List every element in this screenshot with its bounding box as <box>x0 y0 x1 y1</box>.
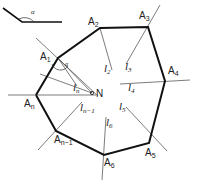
label-N: N <box>96 88 103 99</box>
svg-text:l5: l5 <box>119 100 126 114</box>
svg-text:ln: ln <box>73 81 80 95</box>
svg-text:ln−1: ln−1 <box>80 101 95 115</box>
alpha-label-A1: α <box>65 61 69 67</box>
inset-alpha-label: α <box>31 8 35 16</box>
svg-text:l6: l6 <box>106 116 113 130</box>
svg-text:A5: A5 <box>145 147 156 159</box>
svg-text:A3: A3 <box>139 10 150 22</box>
svg-text:A6: A6 <box>104 157 115 169</box>
svg-text:An−1: An−1 <box>54 134 73 146</box>
polygon-diagram: α N α A1 A2 A3 A4 A5 A6 An−1 An l2 l3 l4… <box>0 0 199 190</box>
svg-text:An: An <box>24 98 35 110</box>
svg-text:l3: l3 <box>125 60 132 74</box>
svg-text:A4: A4 <box>168 65 179 77</box>
svg-text:A1: A1 <box>40 51 51 63</box>
svg-text:A2: A2 <box>88 16 99 28</box>
